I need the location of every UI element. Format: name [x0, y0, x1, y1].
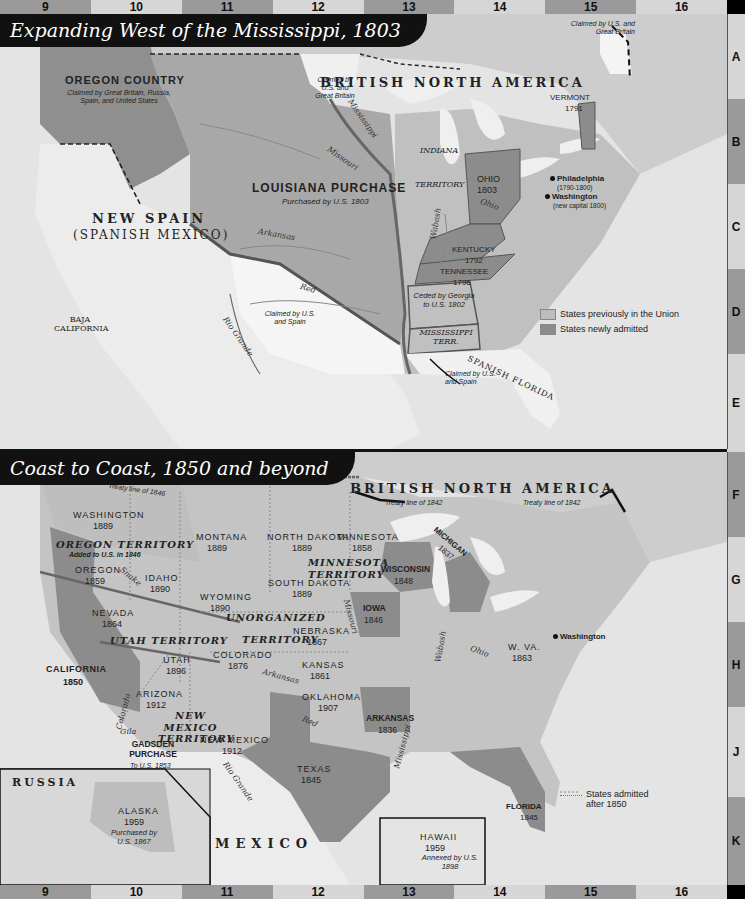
label-oregon-country-note: Claimed by Great Britain, Russia, Spain,… [64, 89, 174, 105]
label-wisconsin-year: 1848 [394, 577, 413, 587]
label-oregon-country: OREGON COUNTRY [65, 74, 185, 87]
label-new-mexico-year: 1912 [222, 746, 242, 756]
label-south-dakota: SOUTH DAKOTA [268, 578, 350, 588]
grid-col-9-bottom: 9 [0, 885, 91, 899]
label-oregon-territory-note: Added to U.S. in 1846 [69, 551, 141, 559]
label-kentucky: KENTUCKY [452, 245, 496, 254]
label-south-dakota-year: 1889 [292, 589, 312, 599]
grid-col-14: 14 [454, 0, 545, 14]
legend-swatch-new [540, 324, 556, 335]
label-utah: UTAH [163, 655, 191, 665]
label-louisiana-purchase: LOUISIANA PURCHASE [252, 182, 406, 196]
label-wisconsin: WISCONSIN [381, 565, 430, 575]
label-florida-year: 1845 [520, 813, 538, 822]
label-louisiana-purchase-note: Purchased by U.S. 1803 [282, 197, 369, 206]
grid-row-h: H [727, 622, 745, 707]
label-iowa: IOWA [363, 604, 386, 614]
label-hawaii-note: Annexed by U.S. 1898 [420, 854, 480, 871]
label-treaty-1842-a: Treaty line of 1842 [385, 499, 442, 507]
map-1803-title: Expanding West of the Mississippi, 1803 [0, 14, 427, 47]
label-minnesota: MINNESOTA [337, 532, 399, 542]
grid-col-12-bottom: 12 [273, 885, 364, 899]
label-kentucky-year: 1792 [465, 256, 483, 265]
grid-col-15-bottom: 15 [545, 885, 636, 899]
label-wyoming: WYOMING [200, 592, 252, 602]
label-alaska-note: Purchased by U.S. 1867 [103, 829, 165, 846]
city-dot-icon [550, 176, 555, 181]
label-russia: RUSSIA [12, 777, 78, 790]
label-treaty-1842-b: Treaty line of 1842 [523, 499, 580, 507]
label-oregon-territory: OREGON TERRITORY [56, 539, 194, 551]
label-oklahoma-year: 1907 [318, 703, 338, 713]
label-texas: TEXAS [297, 764, 332, 774]
label-new-spain: NEW SPAIN [92, 212, 206, 227]
label-washington-note: (new capital 1800) [553, 202, 606, 209]
label-kansas-year: 1861 [310, 671, 330, 681]
grid-col-14-bottom: 14 [454, 885, 545, 899]
label-alaska-year: 1959 [124, 817, 144, 827]
label-west-virginia: W. VA. [508, 642, 541, 652]
label-nevada: NEVADA [92, 608, 134, 618]
grid-col-13: 13 [364, 0, 455, 14]
label-ohio-year: 1803 [477, 185, 497, 195]
grid-row-g: G [727, 537, 745, 622]
label-hawaii: HAWAII [420, 832, 457, 842]
label-british-north-america-1850: BRITISH NORTH AMERICA [350, 482, 615, 497]
grid-col-12: 12 [273, 0, 364, 14]
grid-col-10-bottom: 10 [91, 885, 182, 899]
grid-row-e: E [727, 354, 745, 452]
label-ceded-by-georgia: Ceded by Georgia to U.S. 1802 [413, 292, 475, 309]
label-nebraska: NEBRASKA [293, 626, 350, 636]
label-nebraska-year: 1867 [307, 637, 327, 647]
grid-row-c: C [727, 184, 745, 269]
label-arkansas: ARKANSAS [366, 714, 414, 724]
legend-item-previous: States previously in the Union [540, 309, 679, 320]
label-washington-1803: Washington [545, 192, 597, 201]
river-gila: Gila [120, 727, 136, 736]
label-ohio: OHIO [477, 174, 500, 184]
label-california-year: 1850 [63, 677, 83, 687]
label-arizona-year: 1912 [146, 700, 166, 710]
label-west-virginia-year: 1863 [512, 653, 532, 663]
map-1850-title: Coast to Coast, 1850 and beyond [0, 452, 355, 485]
label-washington-dc: Washington [553, 632, 605, 641]
label-iowa-year: 1846 [364, 616, 383, 626]
label-montana: MONTANA [196, 532, 247, 542]
label-oregon: OREGON [75, 565, 121, 575]
grid-row-a: A [727, 14, 745, 99]
label-tennessee: TENNESSEE [440, 267, 488, 276]
grid-column-strip-bottom: 9 10 11 12 13 14 15 16 [0, 885, 727, 899]
grid-col-15: 15 [545, 0, 636, 14]
label-claimed-us-gb-north: Claimed by U.S. and Great Britain [315, 76, 355, 100]
grid-col-9: 9 [0, 0, 91, 14]
label-gadsden-note: To U.S. 1853 [130, 762, 171, 770]
label-arkansas-year: 1836 [378, 726, 397, 736]
label-nevada-year: 1864 [102, 619, 122, 629]
label-new-mexico: NEW MEXICO [200, 735, 269, 745]
label-claimed-us-gb-ne: Claimed by U.S. and Great Britain [565, 20, 635, 36]
label-arizona: ARIZONA [136, 689, 183, 699]
label-california: CALIFORNIA [46, 664, 107, 674]
label-texas-year: 1845 [301, 775, 321, 785]
city-dot-icon [545, 194, 550, 199]
label-gadsden-purchase: GADSDEN PURCHASE [128, 740, 178, 760]
map-1803: Expanding West of the Mississippi, 1803 … [0, 14, 728, 449]
city-dot-icon [553, 634, 558, 639]
label-utah-year: 1896 [166, 666, 186, 676]
label-philadelphia-note: (1790-1800) [557, 184, 592, 191]
grid-row-f: F [727, 452, 745, 537]
label-oregon-year: 1859 [85, 576, 105, 586]
label-minnesota-year: 1858 [352, 543, 372, 553]
grid-col-11: 11 [182, 0, 273, 14]
label-indiana: INDIANA [420, 146, 458, 155]
label-indiana-territory: TERRITORY [415, 180, 464, 189]
label-utah-territory: UTAH TERRITORY [110, 635, 228, 647]
label-british-north-america-1803: BRITISH NORTH AMERICA [320, 76, 585, 91]
label-montana-year: 1889 [207, 543, 227, 553]
label-vermont-year: 1791 [565, 104, 583, 113]
label-minnesota-territory: MINNESOTA TERRITORY [308, 557, 378, 580]
grid-col-10: 10 [91, 0, 182, 14]
label-idaho: IDAHO [145, 573, 179, 583]
label-tennessee-year: 1796 [453, 278, 471, 287]
label-philadelphia: Philadelphia [550, 174, 604, 183]
